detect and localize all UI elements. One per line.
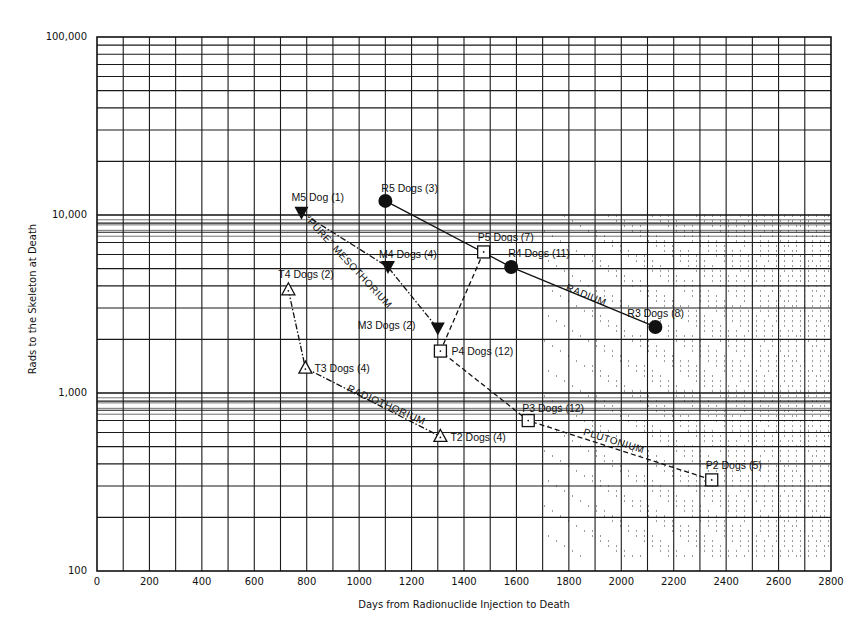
y-tick-label: 1,000: [58, 387, 87, 398]
background: [0, 0, 868, 631]
point-label: P4 Dogs (12): [451, 345, 513, 357]
chart: 0200400600800100012001400160018002000220…: [0, 0, 868, 631]
x-tick-label: 200: [140, 576, 159, 587]
point-label: R5 Dogs (3): [381, 182, 438, 194]
x-tick-label: 1800: [556, 576, 581, 587]
point-label: P5 Dogs (7): [478, 231, 534, 243]
point-label: T2 Dogs (4): [450, 431, 505, 443]
point-label: T4 Dogs (2): [278, 268, 333, 280]
x-tick-label: 400: [192, 576, 211, 587]
x-tick-label: 2000: [609, 576, 634, 587]
x-tick-label: 1600: [504, 576, 529, 587]
x-tick-label: 2200: [661, 576, 686, 587]
marker-dot: [440, 350, 442, 352]
marker-dot: [483, 251, 485, 253]
filled-circle-marker: [378, 194, 392, 208]
x-tick-label: 1200: [399, 576, 424, 587]
y-tick-label: 100: [68, 565, 87, 576]
x-tick-label: 0: [94, 576, 100, 587]
x-tick-label: 2400: [713, 576, 738, 587]
y-tick-label: 10,000: [52, 209, 87, 220]
marker-dot: [711, 479, 713, 481]
filled-circle-marker: [648, 320, 662, 334]
point-label: R3 Dogs (8): [627, 307, 684, 319]
filled-circle-marker: [504, 260, 518, 274]
x-tick-label: 1400: [451, 576, 476, 587]
point-label: T3 Dogs (4): [314, 362, 369, 374]
x-tick-label: 1000: [346, 576, 371, 587]
point-label: M5 Dog (1): [291, 191, 344, 203]
x-tick-label: 600: [245, 576, 264, 587]
x-tick-label: 2600: [766, 576, 791, 587]
marker-dot: [287, 290, 289, 292]
point-label: R4 Dogs (11): [508, 247, 570, 259]
y-axis-title: Rads to the Skeleton at Death: [27, 224, 38, 374]
marker-dot: [440, 437, 442, 439]
point-label: M4 Dogs (4): [379, 248, 437, 260]
point-label: M3 Dogs (2): [358, 319, 416, 331]
marker-dot: [527, 420, 529, 422]
x-tick-label: 2800: [818, 576, 843, 587]
marker-dot: [305, 368, 307, 370]
y-tick-label: 100,000: [46, 31, 87, 42]
x-axis-ticks: 0200400600800100012001400160018002000220…: [94, 576, 844, 587]
x-tick-label: 800: [297, 576, 316, 587]
point-label: P2 Dogs (5): [706, 459, 762, 471]
x-axis-title: Days from Radionuclide Injection to Deat…: [358, 599, 570, 610]
point-label: P3 Dogs (12): [522, 402, 584, 414]
